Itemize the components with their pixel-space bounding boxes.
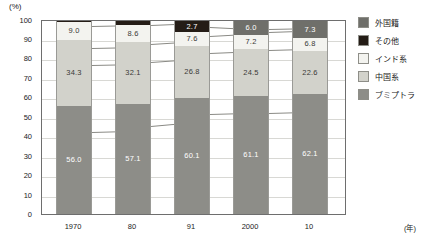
segment-value: 2.7 — [186, 23, 197, 31]
legend-item-chinese[interactable]: 中国系 — [358, 67, 428, 85]
y-tick-0: 0 — [10, 210, 32, 219]
segment-value: 22.6 — [302, 69, 317, 77]
segment-bumiputera-2000[interactable]: 61.1 — [233, 96, 269, 214]
y-axis-unit: (%) — [9, 2, 21, 11]
segment-value: 34.3 — [66, 69, 81, 77]
legend-swatch-icon — [358, 71, 369, 82]
legend-swatch-icon — [358, 53, 369, 64]
y-tick-50: 50 — [10, 113, 32, 122]
x-axis-unit: (年) — [404, 222, 416, 233]
legend-label: 外国籍 — [375, 17, 399, 28]
segment-bumiputera-1970[interactable]: 56.0 — [56, 106, 92, 214]
segment-value: 6.8 — [304, 40, 315, 48]
segment-value: 6.0 — [245, 24, 256, 32]
segment-indian-1970[interactable]: 9.0 — [56, 22, 92, 39]
x-label-80: 80 — [109, 222, 155, 231]
y-tick-40: 40 — [10, 132, 32, 141]
y-tick-60: 60 — [10, 93, 32, 102]
chart-legend: 外国籍 その他 インド系 中国系 ブミプトラ — [358, 13, 428, 103]
segment-value: 7.3 — [304, 26, 315, 34]
y-tick-100: 100 — [10, 16, 32, 25]
y-tick-90: 90 — [10, 35, 32, 44]
legend-label: その他 — [375, 35, 399, 46]
legend-swatch-icon — [358, 89, 369, 100]
segment-value: 9.0 — [68, 27, 79, 35]
segment-chinese-1970[interactable]: 34.3 — [56, 40, 92, 106]
segment-other-80[interactable] — [115, 21, 151, 25]
bar-91[interactable]: 60.1 26.8 7.6 2.7 — [174, 21, 210, 214]
x-label-2000: 2000 — [227, 222, 273, 231]
legend-item-indian[interactable]: インド系 — [358, 49, 428, 67]
y-tick-30: 30 — [10, 152, 32, 161]
segment-bumiputera-10[interactable]: 62.1 — [292, 94, 328, 214]
x-label-91: 91 — [168, 222, 214, 231]
segment-chinese-2000[interactable]: 24.5 — [233, 49, 269, 96]
segment-foreign-2000[interactable]: 6.0 — [233, 21, 269, 35]
bar-2000[interactable]: 61.1 24.5 7.2 6.0 — [233, 21, 269, 214]
legend-label: 中国系 — [375, 71, 399, 82]
segment-value: 62.1 — [302, 150, 317, 158]
segment-value: 56.0 — [66, 156, 81, 164]
segment-value: 61.1 — [243, 151, 258, 159]
segment-value: 24.5 — [243, 69, 258, 77]
y-tick-70: 70 — [10, 74, 32, 83]
bar-80[interactable]: 57.1 32.1 8.6 — [115, 21, 151, 214]
legend-item-bumiputera[interactable]: ブミプトラ — [358, 85, 428, 103]
y-tick-20: 20 — [10, 171, 32, 180]
segment-other-1970[interactable] — [56, 21, 92, 22]
segment-value: 7.6 — [186, 35, 197, 43]
x-label-10: 10 — [286, 222, 332, 231]
segment-indian-80[interactable]: 8.6 — [115, 25, 151, 42]
segment-foreign-10[interactable]: 7.3 — [292, 21, 328, 38]
legend-swatch-icon — [358, 17, 369, 28]
x-label-1970: 1970 — [50, 222, 96, 231]
segment-value: 8.6 — [127, 30, 138, 38]
plot-area: 56.0 34.3 9.0 57.1 32.1 8.6 — [41, 20, 346, 215]
y-tick-10: 10 — [10, 191, 32, 200]
y-tick-80: 80 — [10, 54, 32, 63]
legend-label: インド系 — [375, 53, 407, 64]
bar-10[interactable]: 62.1 22.6 6.8 7.3 — [292, 21, 328, 214]
legend-swatch-icon — [358, 35, 369, 46]
segment-chinese-10[interactable]: 22.6 — [292, 51, 328, 95]
segment-value: 26.8 — [184, 68, 199, 76]
legend-label: ブミプトラ — [375, 89, 415, 100]
segment-foreign-91[interactable]: 2.7 — [174, 21, 210, 32]
segment-indian-10[interactable]: 6.8 — [292, 38, 328, 51]
segment-bumiputera-80[interactable]: 57.1 — [115, 104, 151, 214]
segment-chinese-91[interactable]: 26.8 — [174, 46, 210, 98]
segment-indian-91[interactable]: 7.6 — [174, 32, 210, 47]
bar-1970[interactable]: 56.0 34.3 9.0 — [56, 21, 92, 214]
segment-value: 7.2 — [245, 38, 256, 46]
legend-item-other[interactable]: その他 — [358, 31, 428, 49]
legend-item-foreign[interactable]: 外国籍 — [358, 13, 428, 31]
segment-value: 57.1 — [125, 155, 140, 163]
segment-indian-2000[interactable]: 7.2 — [233, 35, 269, 49]
segment-value: 32.1 — [125, 69, 140, 77]
segment-chinese-80[interactable]: 32.1 — [115, 42, 151, 104]
stacked-bar-chart: (%) (年) 100 90 80 70 60 50 40 30 20 10 0 — [0, 0, 429, 245]
segment-value: 60.1 — [184, 152, 199, 160]
segment-bumiputera-91[interactable]: 60.1 — [174, 98, 210, 214]
